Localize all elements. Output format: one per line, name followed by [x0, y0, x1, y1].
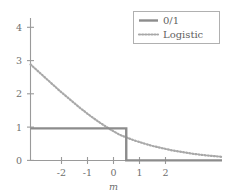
y-tick-label-3: 3 — [16, 55, 22, 66]
y-tick-label-4: 4 — [16, 22, 22, 33]
x-tick-label-2: 2 — [162, 167, 168, 178]
x-tick-label-0: 0 — [110, 167, 116, 178]
legend-label-zero-one: 0/1 — [163, 15, 179, 26]
zero-one-loss-curve — [31, 128, 223, 160]
x-axis-title: m — [109, 181, 118, 192]
x-tick-label-neg1: -1 — [83, 167, 92, 178]
x-tick-label-1: 1 — [136, 167, 142, 178]
y-axis-tick-labels: 4 3 2 1 0 — [16, 22, 22, 166]
legend-label-logistic: Logistic — [163, 29, 204, 40]
x-axis-tick-labels: -2 -1 0 1 2 — [57, 167, 169, 178]
loss-comparison-plot: 4 3 2 1 0 -2 -1 0 1 2 m — [0, 0, 228, 195]
y-tick-label-1: 1 — [16, 122, 22, 133]
y-tick-label-2: 2 — [16, 88, 22, 99]
x-tick-label-neg2: -2 — [57, 167, 66, 178]
legend: 0/1 Logistic — [134, 12, 220, 44]
chart-figure: 4 3 2 1 0 -2 -1 0 1 2 m — [0, 0, 228, 195]
y-tick-label-0: 0 — [16, 155, 22, 166]
series-group — [31, 64, 223, 160]
